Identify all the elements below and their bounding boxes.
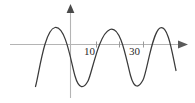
x-axis-tick-label-30: 30 <box>129 46 140 57</box>
y-axis-arrow-icon <box>67 4 75 13</box>
sinusoid-curve <box>36 27 177 86</box>
x-axis-tick-label-10: 10 <box>84 46 95 57</box>
chart-figure: 10 30 <box>0 0 195 103</box>
plot-canvas <box>0 0 195 103</box>
x-axis-arrow-icon <box>178 41 188 49</box>
